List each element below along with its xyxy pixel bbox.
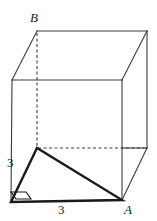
front-face-left-edge	[11, 80, 12, 202]
measure-label-bottom-leg: 3	[58, 203, 65, 216]
top-face-left-diagonal-edge	[12, 31, 37, 80]
hidden-edges-group	[37, 33, 146, 148]
top-face-right-diagonal-edge	[122, 31, 147, 80]
measure-label-vertical-leg: 3	[7, 156, 14, 169]
visible-edges-group	[11, 31, 147, 202]
prism-drawing	[0, 0, 157, 221]
vertex-label-b: B	[30, 11, 38, 24]
vertex-label-a: A	[124, 203, 132, 216]
geometry-figure: B A 3 3	[0, 0, 157, 221]
right-face-bottom-diagonal-edge	[122, 148, 147, 200]
